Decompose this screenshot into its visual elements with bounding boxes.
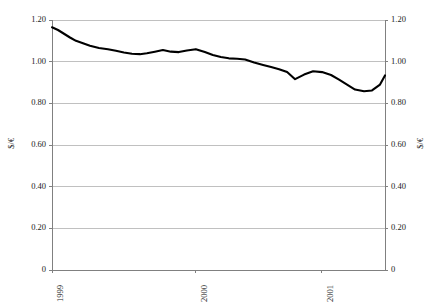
- y-axis-tick-label: 0.20: [16, 223, 46, 232]
- y-axis-tick-label: 0.80: [391, 98, 421, 107]
- gridlines: [52, 20, 385, 228]
- chart-axes: [49, 20, 388, 273]
- x-axis-tick-label: 2001: [326, 285, 335, 302]
- x-axis-tick-label: 1999: [56, 285, 65, 302]
- y-axis-tick-label: 0: [16, 265, 46, 274]
- y-axis-left-title: $/€: [7, 138, 16, 149]
- y-axis-tick-label: 0.40: [16, 182, 46, 191]
- y-axis-tick-label: 0.80: [16, 98, 46, 107]
- series-line-dollar-per-euro: [52, 27, 385, 91]
- y-axis-tick-label: 0.60: [16, 140, 46, 149]
- chart-canvas: [0, 0, 440, 308]
- y-axis-tick-label: 0.40: [391, 182, 421, 191]
- y-axis-tick-label: 1.20: [391, 15, 421, 24]
- y-axis-tick-label: 0.20: [391, 223, 421, 232]
- y-axis-tick-label: 1.20: [16, 15, 46, 24]
- y-axis-right-title: $/€: [416, 138, 425, 149]
- y-axis-tick-label: 1.00: [391, 57, 421, 66]
- y-axis-tick-label: 0: [391, 265, 421, 274]
- data-series-line: [52, 27, 385, 91]
- y-axis-tick-label: 1.00: [16, 57, 46, 66]
- x-axis-tick-label: 2000: [200, 285, 209, 302]
- exchange-rate-chart: 1.201.000.800.600.400.200 1.201.000.800.…: [0, 0, 440, 308]
